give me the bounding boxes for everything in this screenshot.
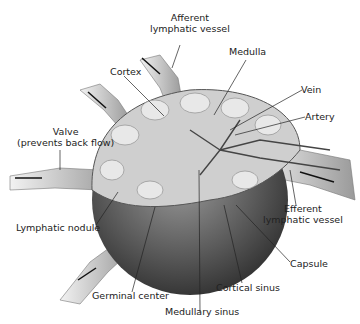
label-afferent-lymphatic-vessel: Afferent lymphatic vessel [150,12,230,34]
label-capsule: Capsule [290,258,328,269]
label-artery: Artery [305,111,335,122]
label-cortex: Cortex [110,66,141,77]
label-vein: Vein [301,84,321,95]
label-efferent-lymphatic-vessel: Efferent lymphatic vessel [263,203,343,225]
label-valve: Valve (prevents back flow) [17,126,114,148]
lymph-node-illustration [0,0,360,324]
label-text: Valve [17,126,114,137]
label-germinal-center: Germinal center [92,290,169,301]
label-lymphatic-nodule: Lymphatic nodule [16,222,100,233]
label-text: lymphatic vessel [150,23,230,34]
label-text: Afferent [150,12,230,23]
label-cortical-sinus: Cortical sinus [216,282,280,293]
label-medullary-sinus: Medullary sinus [165,306,239,317]
lymph-node-diagram: Afferent lymphatic vessel Medulla Cortex… [0,0,360,324]
label-medulla: Medulla [229,46,266,57]
label-text: Efferent [263,203,343,214]
label-text: (prevents back flow) [17,137,114,148]
label-text: lymphatic vessel [263,214,343,225]
